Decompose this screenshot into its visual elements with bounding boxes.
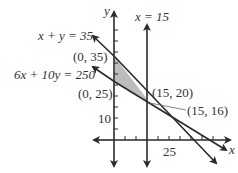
label-6x-10y-250: 6x + 10y = 250	[14, 68, 95, 81]
y-axis-label: y	[104, 4, 110, 17]
point-label-15-20: (15, 20)	[152, 86, 193, 99]
feasible-region	[115, 57, 147, 101]
point-label-15-16: (15, 16)	[187, 104, 228, 117]
x-tick-label-25: 25	[163, 145, 176, 158]
label-x-15: x = 15	[135, 10, 169, 23]
y-tick-label-10: 10	[98, 112, 111, 125]
x-axis-label: x	[229, 143, 235, 156]
label-x-plus-y-35: x + y = 35	[38, 29, 93, 42]
diagram-canvas	[0, 0, 238, 173]
point-label-0-25: (0, 25)	[78, 87, 113, 100]
point-label-0-35: (0, 35)	[73, 50, 108, 63]
